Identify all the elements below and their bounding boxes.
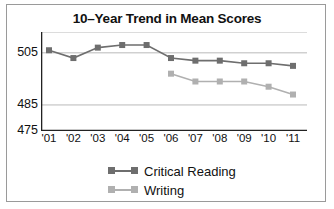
x-axis-label-05: '05 <box>139 132 154 144</box>
x-axis-label-06: '06 <box>164 132 179 144</box>
legend-swatch-icon <box>108 184 138 196</box>
legend-swatch-icon <box>108 165 138 177</box>
legend-item-critical-reading[interactable]: Critical Reading <box>108 163 236 179</box>
data-point-writing-5 <box>290 92 296 98</box>
legend-label: Critical Reading <box>144 164 236 179</box>
series-line-writing <box>171 74 293 95</box>
chart-title: 10–Year Trend in Mean Scores <box>0 11 334 26</box>
y-axis-label-475: 475 <box>8 123 38 137</box>
data-point-writing-3 <box>241 79 247 85</box>
y-axis-label-485: 485 <box>8 97 38 111</box>
y-axis-label-505: 505 <box>8 45 38 59</box>
data-point-critical-reading-0 <box>46 47 52 53</box>
x-axis-label-10: '10 <box>261 132 276 144</box>
legend-label: Writing <box>144 183 184 198</box>
data-point-critical-reading-6 <box>192 58 198 64</box>
data-point-critical-reading-7 <box>217 58 223 64</box>
chart-figure: 10–Year Trend in Mean Scores 475485505 '… <box>0 0 334 209</box>
data-point-writing-1 <box>192 79 198 85</box>
legend-item-writing[interactable]: Writing <box>108 182 184 198</box>
plot-svg <box>41 32 307 131</box>
x-axis-label-09: '09 <box>237 132 252 144</box>
x-axis-label-03: '03 <box>90 132 105 144</box>
x-axis-label-11: '11 <box>286 132 300 144</box>
data-point-critical-reading-1 <box>70 55 76 61</box>
plot-area <box>41 32 307 131</box>
x-axis-label-08: '08 <box>212 132 227 144</box>
x-axis-label-07: '07 <box>188 132 203 144</box>
data-point-critical-reading-2 <box>95 45 101 51</box>
x-axis-tick-labels: '01'02'03'04'05'06'07'08'09'10'11 <box>41 132 307 148</box>
data-point-writing-4 <box>266 84 272 90</box>
chart-legend: Critical ReadingWriting <box>108 163 288 201</box>
data-point-critical-reading-9 <box>266 60 272 66</box>
data-point-critical-reading-10 <box>290 63 296 69</box>
data-point-critical-reading-3 <box>119 42 125 48</box>
x-axis-label-02: '02 <box>66 132 81 144</box>
data-point-critical-reading-5 <box>168 55 174 61</box>
x-axis-label-04: '04 <box>115 132 130 144</box>
y-axis-tick-labels: 475485505 <box>6 0 38 209</box>
data-point-writing-0 <box>168 71 174 77</box>
data-point-writing-2 <box>217 79 223 85</box>
data-point-critical-reading-4 <box>144 42 150 48</box>
x-axis-label-01: '01 <box>42 132 57 144</box>
data-point-critical-reading-8 <box>241 60 247 66</box>
